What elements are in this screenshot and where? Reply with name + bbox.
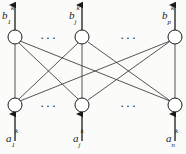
output-node-bj bbox=[75, 30, 89, 44]
output-label-bp: bpk bbox=[162, 10, 174, 21]
input-node-a1 bbox=[8, 98, 22, 112]
input-node-aj bbox=[75, 98, 89, 112]
output-label-bp-sub: p bbox=[168, 18, 172, 26]
output-label-bj-sup: k bbox=[76, 4, 79, 12]
output-node-b1 bbox=[8, 30, 22, 44]
ellipsis-input-right: ··· bbox=[120, 99, 138, 112]
input-label-aj-base: a bbox=[73, 132, 79, 144]
input-label-an-sup: k bbox=[175, 127, 178, 135]
ellipsis-output-right: ··· bbox=[120, 31, 138, 44]
output-label-bp-sup: k bbox=[171, 4, 174, 12]
edge-group bbox=[15, 41, 175, 101]
input-node-group bbox=[8, 98, 182, 112]
input-label-a1-base: a bbox=[6, 132, 12, 144]
output-node-bp bbox=[168, 30, 182, 44]
network-graph-svg bbox=[0, 0, 186, 154]
output-label-b1-sub: 1 bbox=[8, 18, 12, 26]
input-label-a1-sup: k bbox=[15, 127, 18, 135]
output-arrow-group bbox=[15, 5, 175, 30]
ellipsis-output-left: ··· bbox=[40, 31, 58, 44]
input-label-an: ank bbox=[166, 133, 178, 144]
input-label-aj-sup: k bbox=[80, 127, 83, 135]
ellipsis-input-left: ··· bbox=[40, 99, 58, 112]
output-label-b1-base: b bbox=[2, 9, 8, 21]
output-label-b1: b1k bbox=[2, 10, 14, 21]
network-diagram-figure: ··· ··· ··· ··· b1k bjk bpk a1k ajk ank bbox=[0, 0, 186, 154]
input-label-a1-sub: 1 bbox=[12, 141, 16, 149]
output-label-bp-base: b bbox=[162, 9, 168, 21]
output-label-bj-base: b bbox=[69, 9, 75, 21]
input-arrow-group bbox=[15, 114, 175, 141]
input-label-an-sub: n bbox=[172, 141, 176, 149]
input-node-an bbox=[168, 98, 182, 112]
output-label-b1-sup: k bbox=[11, 4, 14, 12]
output-label-bj: bjk bbox=[69, 10, 80, 21]
output-node-group bbox=[8, 30, 182, 44]
input-label-a1: a1k bbox=[6, 133, 18, 144]
input-label-an-base: a bbox=[166, 132, 172, 144]
input-label-aj: ajk bbox=[73, 133, 84, 144]
